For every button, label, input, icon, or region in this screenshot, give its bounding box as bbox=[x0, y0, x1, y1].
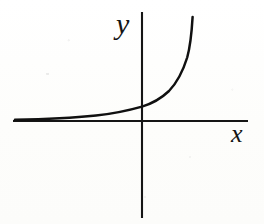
exponential-graph-figure: y x bbox=[0, 0, 264, 224]
x-axis-label: x bbox=[231, 121, 243, 147]
exponential-curve bbox=[15, 17, 193, 120]
y-axis-label: y bbox=[116, 9, 129, 39]
plot-canvas bbox=[0, 0, 264, 224]
